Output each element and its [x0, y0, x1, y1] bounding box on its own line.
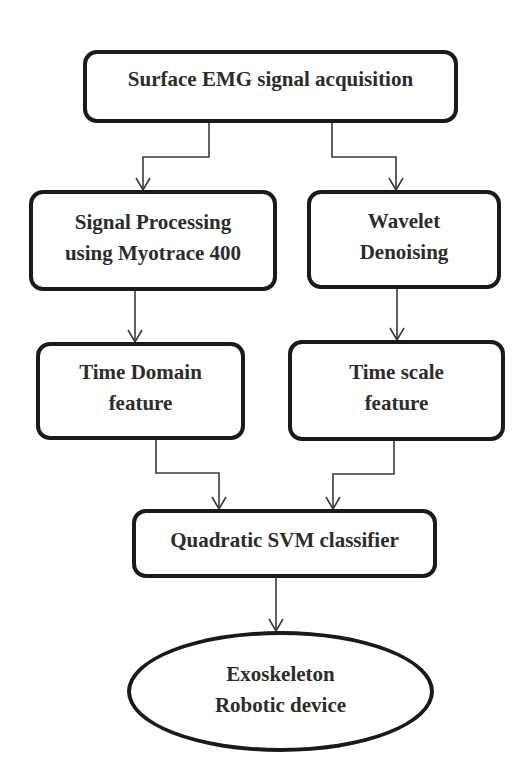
node-label-line-1: Exoskeleton — [226, 659, 335, 690]
node-wavelet-denoising: Wavelet Denoising — [307, 190, 501, 289]
node-label-line-1: Time Domain — [79, 357, 202, 388]
arrow-time-scale-to-svm — [333, 440, 394, 509]
node-exoskeleton-robotic-device: Exoskeleton Robotic device — [127, 631, 434, 752]
flowchart-canvas: Surface EMG signal acquisition Signal Pr… — [0, 0, 528, 780]
node-label-line-2: using Myotrace 400 — [65, 238, 241, 269]
node-quadratic-svm-classifier: Quadratic SVM classifier — [132, 509, 437, 578]
node-label-line-2: feature — [109, 388, 173, 419]
node-signal-processing: Signal Processing using Myotrace 400 — [29, 190, 277, 291]
node-label-line-1: Time scale — [349, 357, 444, 388]
node-label: Quadratic SVM classifier — [170, 525, 399, 556]
arrow-acquisition-to-wavelet — [332, 122, 396, 190]
node-time-scale-feature: Time scale feature — [288, 340, 505, 441]
node-label-line-2: feature — [365, 388, 429, 419]
node-label: Surface EMG signal acquisition — [128, 64, 413, 95]
arrow-acquisition-to-signal-processing — [143, 122, 209, 190]
node-label-line-1: Signal Processing — [75, 207, 232, 238]
node-surface-emg-acquisition: Surface EMG signal acquisition — [83, 50, 458, 123]
node-label-line-2: Robotic device — [215, 690, 346, 721]
arrow-time-domain-to-svm — [156, 439, 219, 509]
node-time-domain-feature: Time Domain feature — [36, 342, 245, 440]
node-label-line-2: Denoising — [360, 237, 449, 268]
node-label-line-1: Wavelet — [368, 206, 440, 237]
